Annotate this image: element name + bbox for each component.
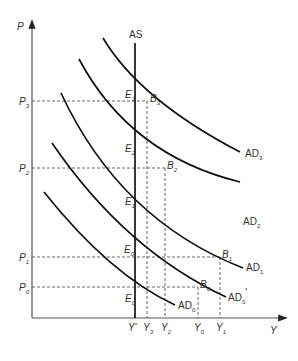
b0-label: B0 (200, 279, 211, 292)
ystar-label: Y* (128, 322, 138, 333)
y2-label: Y2 (161, 322, 172, 335)
ad3-curve (103, 38, 240, 152)
ad-as-diagram: P Y AS AD3 AD2 AD1 AD0′ AD0 P3 P2 P1 P0 … (0, 0, 298, 361)
e3-label: E3 (125, 89, 136, 102)
ad1-label: AD1 (246, 262, 264, 275)
b3-label: B3 (150, 93, 161, 106)
e2-label: E2 (125, 143, 136, 156)
ad3-label: AD3 (245, 148, 263, 161)
as-label: AS (129, 29, 143, 40)
ad0-prime-label: AD0′ (228, 287, 247, 305)
ad0-curve (44, 192, 175, 305)
y3-label: Y3 (143, 322, 154, 335)
p1-label: P1 (19, 252, 29, 265)
p2-label: P2 (19, 163, 30, 176)
p0-label: P0 (19, 282, 30, 295)
ad2-label: AD2 (243, 216, 261, 229)
ad0-label: AD0 (178, 300, 196, 313)
y-axis-label: P (17, 21, 24, 32)
x-axis-label: Y (270, 325, 278, 336)
p3-label: P3 (19, 96, 30, 109)
price-guides (32, 101, 220, 287)
y1-label: Y1 (216, 322, 226, 335)
b2-label: B2 (167, 160, 178, 173)
e0-label: E0 (125, 293, 136, 306)
y0-label: Y0 (194, 322, 205, 335)
ad0-prime-curve (52, 143, 226, 297)
